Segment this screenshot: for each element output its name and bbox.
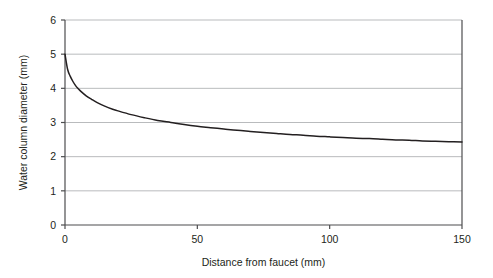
x-tick-label-150: 150 — [453, 233, 471, 245]
x-tick-label-50: 50 — [191, 233, 203, 245]
y-tick-label-1: 1 — [50, 185, 56, 197]
x-tick-label-100: 100 — [321, 233, 339, 245]
water-column-diameter-chart: 0123456 050100150 Distance from faucet (… — [0, 0, 493, 278]
y-tick-label-3: 3 — [50, 116, 56, 128]
y-tick-label-5: 5 — [50, 48, 56, 60]
y-tick-label-0: 0 — [50, 219, 56, 231]
y-tick-label-6: 6 — [50, 14, 56, 26]
x-axis-title: Distance from faucet (mm) — [202, 256, 326, 268]
chart-background — [0, 0, 493, 278]
y-tick-label-2: 2 — [50, 150, 56, 162]
y-axis-title: Water column diameter (mm) — [17, 55, 29, 191]
x-tick-label-0: 0 — [62, 233, 68, 245]
chart-figure: 0123456 050100150 Distance from faucet (… — [0, 0, 493, 278]
y-tick-label-4: 4 — [50, 82, 56, 94]
